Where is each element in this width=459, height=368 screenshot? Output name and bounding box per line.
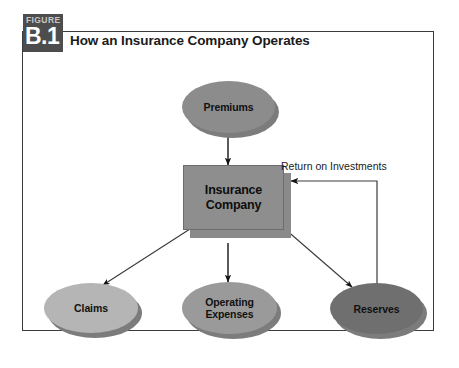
node-insurance-company-body: Insurance Company [183, 165, 284, 230]
node-operating-expenses-label-line2: Expenses [205, 308, 254, 320]
arrow-company-to-claims [103, 229, 190, 285]
node-operating-expenses-body: Operating Expenses [182, 282, 277, 334]
node-premiums-body: Premiums [182, 81, 275, 133]
node-insurance-company-label-line2: Company [205, 198, 262, 213]
arrow-reserves-to-company [291, 181, 377, 292]
node-insurance-company[interactable]: Insurance Company [183, 165, 284, 230]
node-insurance-company-label-line1: Insurance [205, 183, 262, 198]
figure-tag-number: B.1 [25, 23, 59, 49]
figure-container: FIGURE B.1 How an Insurance Company Oper… [0, 0, 459, 368]
node-reserves-label: Reserves [354, 303, 400, 315]
node-operating-expenses[interactable]: Operating Expenses [182, 282, 277, 334]
node-reserves-body: Reserves [330, 283, 423, 334]
node-claims[interactable]: Claims [44, 283, 138, 333]
node-claims-label: Claims [74, 302, 108, 314]
node-premiums-label: Premiums [204, 101, 254, 113]
edge-label-return-on-investments: Return on Investments [281, 160, 387, 172]
node-insurance-company-label: Insurance Company [205, 183, 262, 213]
node-operating-expenses-label: Operating Expenses [205, 296, 254, 320]
node-premiums[interactable]: Premiums [182, 81, 275, 133]
node-reserves[interactable]: Reserves [330, 283, 423, 334]
figure-tag: FIGURE B.1 [23, 14, 63, 52]
arrow-company-to-reserves [285, 229, 352, 287]
node-claims-body: Claims [44, 283, 138, 333]
node-operating-expenses-label-line1: Operating [205, 296, 254, 308]
